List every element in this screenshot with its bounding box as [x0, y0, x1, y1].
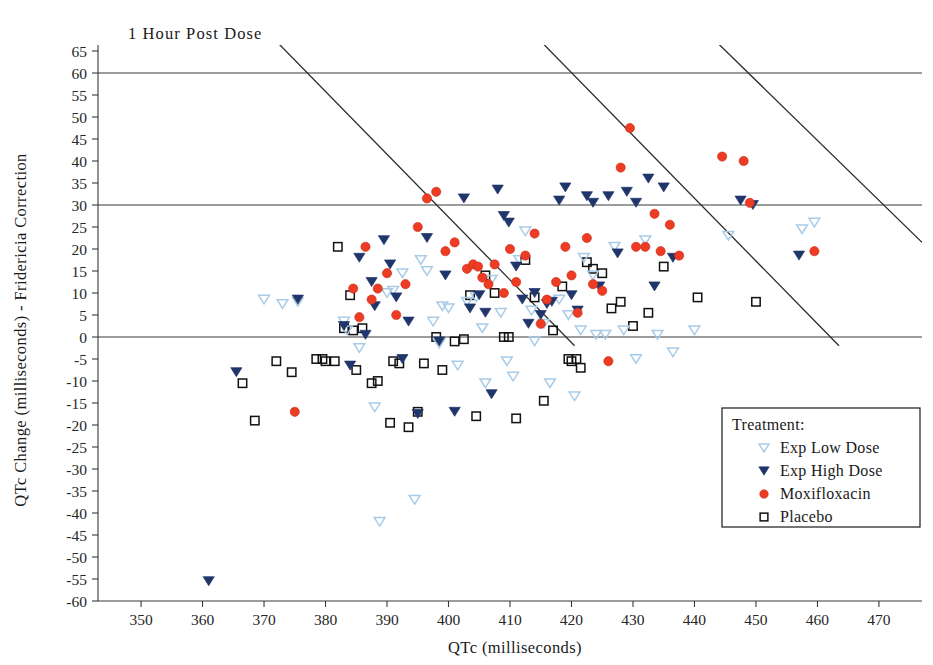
legend-title: Treatment: — [732, 416, 805, 433]
legend-marker-circle-filled — [760, 490, 768, 498]
data-point — [631, 242, 640, 251]
y-tick-label-45: 45 — [72, 131, 88, 148]
y-tick-label-55: 55 — [72, 87, 88, 104]
y-tick-label--10: -10 — [66, 373, 87, 390]
data-point — [392, 310, 401, 319]
data-point — [349, 284, 358, 293]
legend-label: Exp Low Dose — [780, 439, 880, 457]
data-point — [810, 247, 819, 256]
y-tick-label--60: -60 — [66, 593, 87, 610]
plot-background — [0, 0, 933, 665]
data-point — [745, 198, 754, 207]
data-point — [441, 247, 450, 256]
x-tick-label-380: 380 — [314, 611, 338, 628]
legend-label: Placebo — [780, 508, 833, 525]
data-point — [530, 229, 539, 238]
data-point — [656, 247, 665, 256]
data-point — [422, 194, 431, 203]
y-tick-label--30: -30 — [66, 461, 87, 478]
data-point — [413, 222, 422, 231]
y-tick-label--45: -45 — [66, 527, 87, 544]
data-point — [499, 288, 508, 297]
y-tick-label-20: 20 — [72, 241, 88, 258]
data-point — [512, 277, 521, 286]
data-point — [625, 123, 634, 132]
x-tick-label-420: 420 — [560, 611, 584, 628]
x-tick-label-440: 440 — [683, 611, 707, 628]
x-tick-label-360: 360 — [191, 611, 215, 628]
data-point — [598, 286, 607, 295]
data-point — [536, 319, 545, 328]
data-point — [382, 269, 391, 278]
y-tick-label-10: 10 — [72, 285, 88, 302]
data-point — [355, 313, 364, 322]
data-point — [361, 242, 370, 251]
data-point — [490, 260, 499, 269]
data-point — [573, 308, 582, 317]
data-point — [450, 238, 459, 247]
scatter-plot-svg: QTc Change (milliseconds) - Fridericia C… — [0, 0, 933, 665]
data-point — [561, 242, 570, 251]
data-point — [367, 295, 376, 304]
data-point — [484, 280, 493, 289]
page-title: 1 Hour Post Dose — [128, 24, 262, 43]
legend-label: Moxifloxacin — [780, 485, 871, 502]
data-point — [552, 277, 561, 286]
data-point — [401, 280, 410, 289]
x-tick-label-460: 460 — [806, 611, 830, 628]
y-tick-label-15: 15 — [72, 263, 88, 280]
y-tick-label--5: -5 — [74, 351, 87, 368]
y-tick-label-35: 35 — [72, 175, 88, 192]
x-tick-label-450: 450 — [744, 611, 768, 628]
legend[interactable]: Treatment:Exp Low DoseExp High DoseMoxif… — [722, 408, 920, 527]
x-axis-title: QTc (milliseconds) — [448, 638, 582, 657]
y-tick-label-5: 5 — [79, 307, 87, 324]
y-tick-label--35: -35 — [66, 483, 87, 500]
data-point — [616, 163, 625, 172]
data-point — [542, 295, 551, 304]
x-tick-label-390: 390 — [375, 611, 399, 628]
data-point — [473, 262, 482, 271]
data-point — [739, 156, 748, 165]
data-point — [290, 407, 299, 416]
y-tick-label-0: 0 — [79, 329, 87, 346]
data-point — [718, 152, 727, 161]
y-tick-label--20: -20 — [66, 417, 87, 434]
x-tick-label-430: 430 — [621, 611, 645, 628]
x-tick-label-410: 410 — [498, 611, 522, 628]
chart-figure: QTc Change (milliseconds) - Fridericia C… — [0, 0, 933, 665]
data-point — [604, 357, 613, 366]
y-tick-label-40: 40 — [72, 153, 88, 170]
x-tick-label-370: 370 — [252, 611, 276, 628]
data-point — [650, 209, 659, 218]
data-point — [641, 242, 650, 251]
y-tick-label-60: 60 — [72, 65, 88, 82]
x-tick-label-400: 400 — [437, 611, 461, 628]
y-tick-label-50: 50 — [72, 109, 88, 126]
y-tick-label--40: -40 — [66, 505, 87, 522]
data-point — [521, 251, 530, 260]
x-tick-label-350: 350 — [129, 611, 153, 628]
data-point — [675, 251, 684, 260]
x-tick-label-470: 470 — [867, 611, 891, 628]
data-point — [567, 271, 576, 280]
data-point — [588, 280, 597, 289]
y-tick-label-25: 25 — [72, 219, 88, 236]
y-tick-label--25: -25 — [66, 439, 87, 456]
data-point — [505, 244, 514, 253]
y-tick-label--50: -50 — [66, 549, 87, 566]
y-tick-label-30: 30 — [72, 197, 88, 214]
data-point — [432, 187, 441, 196]
data-point — [582, 233, 591, 242]
data-point — [373, 284, 382, 293]
legend-label: Exp High Dose — [780, 462, 883, 480]
y-tick-label-65: 65 — [72, 43, 88, 60]
y-axis-title: QTc Change (milliseconds) - Fridericia C… — [11, 153, 30, 506]
y-tick-label--55: -55 — [66, 571, 87, 588]
y-tick-label--15: -15 — [66, 395, 87, 412]
data-point — [665, 220, 674, 229]
